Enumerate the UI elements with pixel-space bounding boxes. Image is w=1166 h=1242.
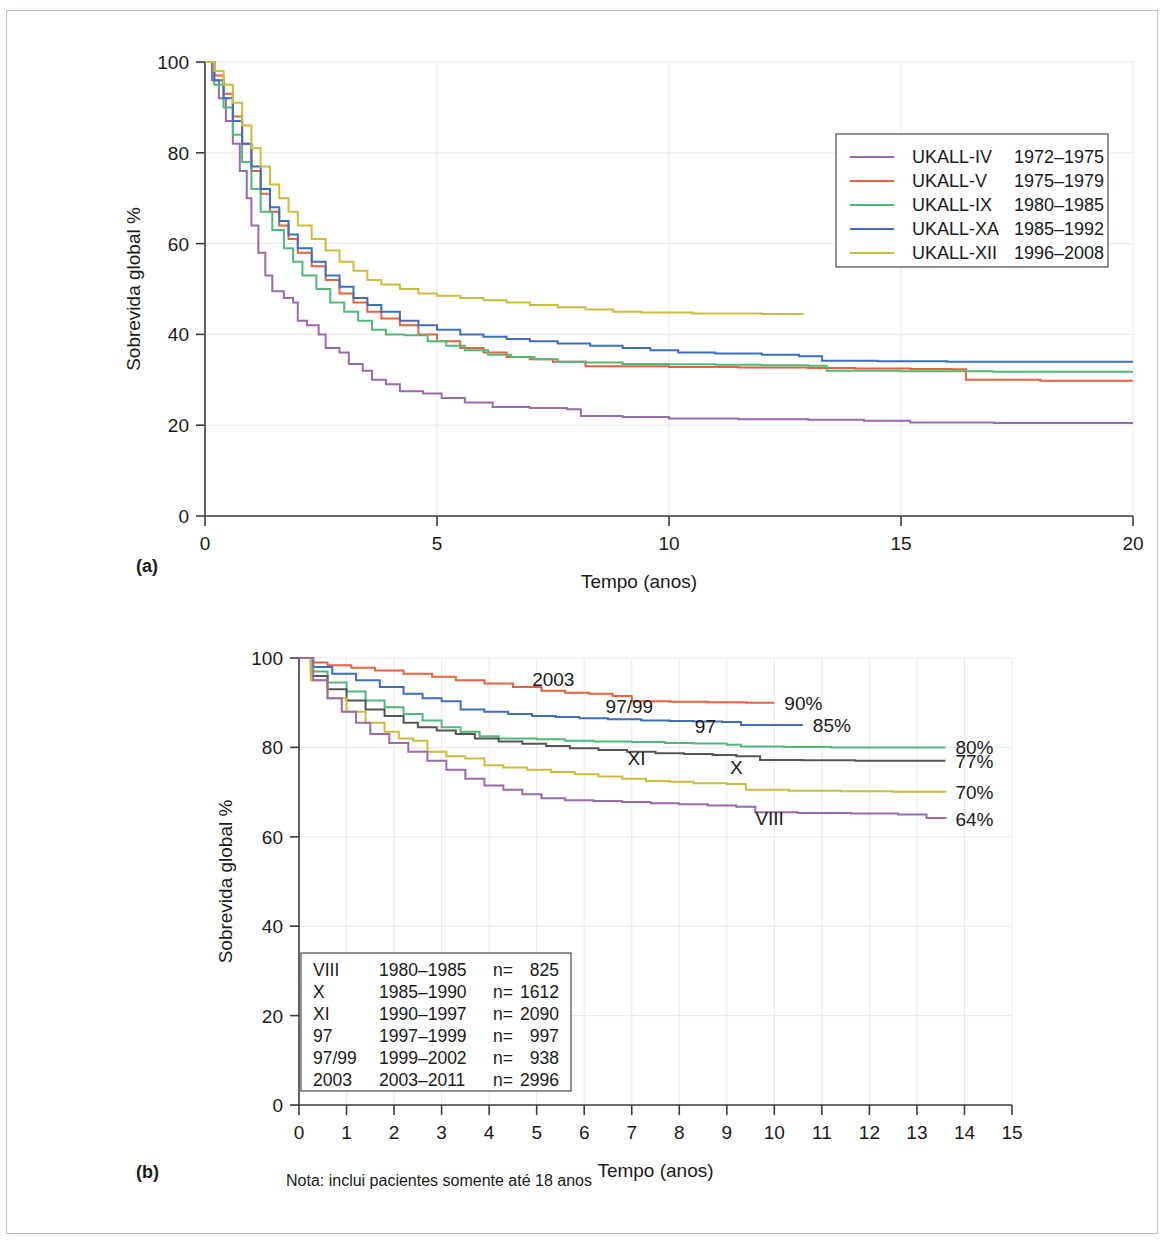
legend-n-value: 2090 — [520, 1004, 559, 1024]
legend-n-label: n= — [493, 982, 513, 1002]
inline-curve-label-2003: 2003 — [532, 669, 574, 690]
legend-period-UKALL-V: 1975–1979 — [1014, 171, 1104, 191]
inline-curve-label-VIII: VIII — [755, 808, 784, 829]
x-tick-label: 11 — [812, 1122, 832, 1143]
legend-n-value: 825 — [530, 960, 559, 980]
legend-trial: X — [313, 982, 325, 1002]
x-axis-title: Tempo (anos) — [597, 1160, 713, 1181]
inline-curve-label-97: 97 — [695, 716, 716, 737]
x-axis-title: Tempo (anos) — [581, 571, 697, 592]
x-tick-label: 0 — [294, 1122, 305, 1143]
panel-b-label: (b) — [136, 1162, 159, 1183]
x-tick-label: 15 — [1001, 1122, 1022, 1143]
inline-curve-label-X: X — [730, 757, 743, 778]
legend-trial: 97/99 — [313, 1048, 357, 1068]
legend-n-value: 938 — [530, 1048, 559, 1068]
y-tick-label: 40 — [168, 324, 189, 345]
x-tick-label: 3 — [436, 1122, 447, 1143]
x-tick-label: 2 — [389, 1122, 400, 1143]
end-label-XI: 77% — [955, 751, 993, 772]
survival-curve-UKALL-XII — [205, 62, 804, 314]
legend-n-label: n= — [493, 1070, 513, 1090]
x-tick-label: 5 — [432, 533, 443, 554]
y-tick-label: 20 — [262, 1006, 283, 1027]
x-tick-label: 7 — [626, 1122, 637, 1143]
legend-n-label: n= — [493, 1048, 513, 1068]
x-tick-label: 6 — [579, 1122, 590, 1143]
y-tick-label: 80 — [262, 737, 283, 758]
end-label-VIII: 64% — [955, 809, 993, 830]
end-label-X: 70% — [955, 782, 993, 803]
legend-n-value: 2996 — [520, 1070, 559, 1090]
legend-period: 1990–1997 — [379, 1004, 467, 1024]
legend-label-UKALL-IV: UKALL-IV — [912, 147, 992, 167]
legend-trial: VIII — [313, 960, 339, 980]
legend-label-UKALL-XA: UKALL-XA — [912, 219, 999, 239]
x-tick-label: 4 — [484, 1122, 495, 1143]
legend-label-UKALL-IX: UKALL-IX — [912, 195, 992, 215]
legend-n-label: n= — [493, 960, 513, 980]
legend-n-label: n= — [493, 1026, 513, 1046]
legend-n-value: 1612 — [520, 982, 559, 1002]
figure-svg: 02040608010005101520Tempo (anos)Sobrevid… — [0, 0, 1166, 1242]
y-axis-title: Sobrevida global % — [123, 207, 144, 371]
end-label-97/99: 85% — [813, 715, 851, 736]
legend-label-UKALL-XII: UKALL-XII — [912, 243, 997, 263]
legend-period: 1980–1985 — [379, 960, 467, 980]
survival-curve-VIII — [299, 658, 945, 819]
x-tick-label: 9 — [722, 1122, 733, 1143]
y-tick-label: 0 — [272, 1095, 283, 1116]
x-tick-label: 15 — [890, 533, 911, 554]
y-tick-label: 40 — [262, 916, 283, 937]
legend-n-value: 997 — [530, 1026, 559, 1046]
figure-container: 02040608010005101520Tempo (anos)Sobrevid… — [0, 0, 1166, 1242]
y-tick-label: 60 — [168, 234, 189, 255]
inline-curve-label-97/99: 97/99 — [606, 696, 654, 717]
x-tick-label: 5 — [531, 1122, 542, 1143]
legend-period-UKALL-IX: 1980–1985 — [1014, 195, 1104, 215]
end-label-2003: 90% — [784, 693, 822, 714]
legend-period: 1985–1990 — [379, 982, 467, 1002]
legend-period: 1997–1999 — [379, 1026, 467, 1046]
legend-n-label: n= — [493, 1004, 513, 1024]
x-tick-label: 13 — [906, 1122, 927, 1143]
y-tick-label: 100 — [251, 648, 283, 669]
legend-trial: XI — [313, 1004, 330, 1024]
x-tick-label: 0 — [200, 533, 211, 554]
x-tick-label: 8 — [674, 1122, 685, 1143]
legend-period-UKALL-XII: 1996–2008 — [1014, 243, 1104, 263]
legend-trial: 97 — [313, 1026, 332, 1046]
legend-label-UKALL-V: UKALL-V — [912, 171, 987, 191]
x-tick-label: 10 — [764, 1122, 785, 1143]
x-tick-label: 20 — [1122, 533, 1143, 554]
legend-period-UKALL-XA: 1985–1992 — [1014, 219, 1104, 239]
y-tick-label: 20 — [168, 415, 189, 436]
panel-b-chart: 0204060801000123456789101112131415Tempo … — [215, 648, 1023, 1181]
inline-curve-label-XI: XI — [628, 748, 646, 769]
y-tick-label: 60 — [262, 827, 283, 848]
legend-period: 1999–2002 — [379, 1048, 467, 1068]
panel-a-chart: 02040608010005101520Tempo (anos)Sobrevid… — [123, 52, 1144, 592]
y-tick-label: 0 — [178, 506, 189, 527]
y-tick-label: 80 — [168, 143, 189, 164]
panel-a-label: (a) — [136, 556, 158, 577]
legend-period-UKALL-IV: 1972–1975 — [1014, 147, 1104, 167]
legend-trial: 2003 — [313, 1070, 352, 1090]
y-tick-label: 100 — [157, 52, 189, 73]
x-tick-label: 10 — [658, 533, 679, 554]
y-axis-title: Sobrevida global % — [215, 800, 236, 964]
x-tick-label: 12 — [859, 1122, 880, 1143]
figure-note: Nota: inclui pacientes somente até 18 an… — [286, 1172, 592, 1190]
x-tick-label: 14 — [954, 1122, 976, 1143]
x-tick-label: 1 — [341, 1122, 352, 1143]
legend-period: 2003–2011 — [379, 1070, 465, 1090]
